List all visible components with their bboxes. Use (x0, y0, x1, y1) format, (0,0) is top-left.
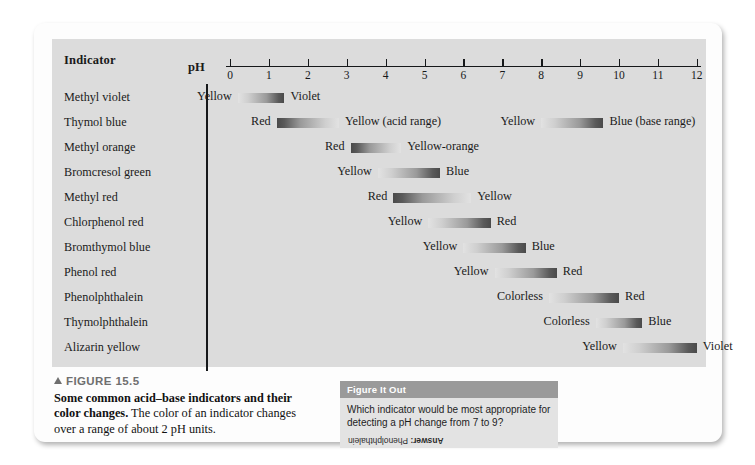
axis-tick-label-3: 3 (336, 69, 358, 81)
band-acid-label-phenol-red-8: Yellow (333, 264, 489, 279)
band-acid-label-thymol-blue-1: Red (115, 114, 271, 129)
axis-tick-label-2: 2 (297, 69, 319, 81)
band-acid-label-methyl-red-5: Red (231, 189, 387, 204)
color-band-phenolphthalein-9 (549, 293, 619, 303)
axis-tick-label-7: 7 (491, 69, 513, 81)
figure-card: Indicator pH 0123456789101112 Methyl vio… (34, 23, 722, 442)
band-base-label-bromcresol-green-4: Blue (446, 164, 469, 179)
band-acid-label-methyl-violet-0: Yellow (76, 89, 232, 104)
color-band-methyl-orange-3 (351, 143, 402, 153)
band-base-label-chlorphenol-red-6: Red (497, 214, 517, 229)
color-band-thymol-blue-1 (277, 118, 339, 128)
axis-tick-1 (269, 59, 270, 66)
figure-number: FIGURE 15.5 (54, 375, 304, 387)
row-label-bromcresol-green: Bromcresol green (64, 165, 151, 180)
column-header-indicator: Indicator (64, 53, 116, 68)
row-label-alizarin-yellow: Alizarin yellow (64, 340, 140, 355)
row-label-methyl-orange: Methyl orange (64, 140, 135, 155)
axis-tick-12 (697, 59, 698, 66)
band-base-label-alizarin-yellow-11: Violet (703, 339, 733, 354)
axis-tick-label-9: 9 (569, 69, 591, 81)
row-label-chlorphenol-red: Chlorphenol red (64, 215, 144, 230)
axis-tick-2 (308, 59, 309, 66)
row-label-methyl-red: Methyl red (64, 190, 118, 205)
color-band-bromcresol-green-4 (378, 168, 440, 178)
color-band-thymol-blue-2 (541, 118, 603, 128)
figure-it-out-box: Figure It Out Which indicator would be m… (340, 381, 558, 448)
axis-tick-label-11: 11 (647, 69, 669, 81)
axis-tick-label-0: 0 (219, 69, 241, 81)
band-acid-label-thymol-blue-2: Yellow (379, 114, 535, 129)
color-band-bromthymol-blue-7 (463, 243, 525, 253)
figure-tag-text: FIGURE 15.5 (66, 375, 139, 387)
indicator-chart-panel: Indicator pH 0123456789101112 Methyl vio… (52, 39, 706, 367)
axis-tick-label-4: 4 (375, 69, 397, 81)
axis-tick-5 (425, 59, 426, 66)
row-label-bromthymol-blue: Bromthymol blue (64, 240, 150, 255)
color-band-phenol-red-8 (495, 268, 557, 278)
band-base-label-thymol-blue-2: Blue (base range) (609, 114, 695, 129)
axis-label-ph: pH (188, 60, 205, 75)
answer-prefix: Answer: (410, 436, 443, 446)
band-base-label-methyl-red-5: Yellow (477, 189, 512, 204)
band-acid-label-bromthymol-blue-7: Yellow (301, 239, 457, 254)
band-base-label-phenolphthalein-9: Red (625, 289, 645, 304)
axis-tick-6 (463, 59, 464, 66)
axis-tick-3 (347, 59, 348, 66)
axis-tick-11 (658, 59, 659, 66)
axis-tick-0 (230, 59, 231, 66)
band-acid-label-bromcresol-green-4: Yellow (216, 164, 372, 179)
band-base-label-thymolphthalein-10: Blue (648, 314, 671, 329)
figure-it-out-question: Which indicator would be most appropriat… (340, 398, 558, 431)
color-band-chlorphenol-red-6 (428, 218, 490, 228)
axis-tick-8 (541, 59, 542, 66)
figure-page: Indicator pH 0123456789101112 Methyl vio… (0, 0, 755, 465)
axis-tick-label-10: 10 (608, 69, 630, 81)
band-base-label-phenol-red-8: Red (563, 264, 583, 279)
answer-text: Phenolphthalein (348, 436, 410, 446)
axis-tick-label-5: 5 (414, 69, 436, 81)
triangle-up-icon (54, 377, 62, 384)
band-base-label-methyl-violet-0: Violet (290, 89, 320, 104)
band-acid-label-thymolphthalein-10: Colorless (434, 314, 590, 329)
row-label-phenolphthalein: Phenolphthalein (64, 290, 143, 305)
axis-tick-label-6: 6 (452, 69, 474, 81)
color-band-methyl-red-5 (393, 193, 471, 203)
axis-tick-9 (580, 59, 581, 66)
band-acid-label-chlorphenol-red-6: Yellow (266, 214, 422, 229)
figure-caption: FIGURE 15.5 Some common acid–base indica… (54, 375, 304, 437)
color-band-methyl-violet-0 (238, 93, 285, 103)
color-band-thymolphthalein-10 (596, 318, 643, 328)
row-label-phenol-red: Phenol red (64, 265, 116, 280)
axis-tick-label-12: 12 (686, 69, 708, 81)
figure-it-out-answer: Answer: Phenolphthalein (340, 431, 558, 448)
row-label-thymolphthalein: Thymolphthalein (64, 315, 148, 330)
band-acid-label-methyl-orange-3: Red (189, 139, 345, 154)
band-acid-label-alizarin-yellow-11: Yellow (461, 339, 617, 354)
figure-it-out-header: Figure It Out (340, 381, 558, 398)
color-band-alizarin-yellow-11 (623, 343, 697, 353)
ph-axis-line (226, 66, 701, 67)
band-base-label-methyl-orange-3: Yellow-orange (407, 139, 479, 154)
axis-tick-7 (502, 59, 503, 66)
axis-tick-4 (386, 59, 387, 66)
axis-tick-label-8: 8 (530, 69, 552, 81)
band-base-label-bromthymol-blue-7: Blue (532, 239, 555, 254)
band-acid-label-phenolphthalein-9: Colorless (387, 289, 543, 304)
axis-tick-10 (619, 59, 620, 66)
caption-text: Some common acid–base indicators and the… (54, 391, 304, 437)
axis-tick-label-1: 1 (258, 69, 280, 81)
